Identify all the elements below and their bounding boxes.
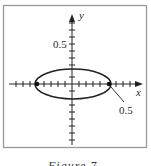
right-vertex-point xyxy=(107,82,112,87)
callout-label: 0.5 xyxy=(119,104,133,116)
callout-leader-line xyxy=(111,87,124,102)
y-axis xyxy=(69,14,75,145)
figure-caption: Figure 7 xyxy=(48,159,97,166)
figure-graph: y x 0.5 0.5 xyxy=(0,0,151,166)
x-axis-label: x xyxy=(135,86,141,98)
y-tick-label: 0.5 xyxy=(53,38,67,50)
y-axis-arrow-icon xyxy=(69,14,75,22)
left-vertex-point xyxy=(35,82,40,87)
x-axis xyxy=(9,81,143,87)
y-axis-label: y xyxy=(78,9,84,21)
